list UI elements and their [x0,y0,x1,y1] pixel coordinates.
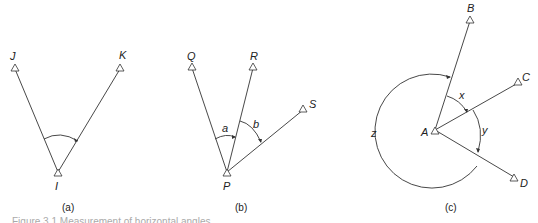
arrowhead-icon [476,148,480,153]
arrowhead-icon [446,75,451,79]
label-j: J [9,50,16,62]
angle-arc-jik [44,135,78,141]
angle-arc-y [473,110,481,152]
panel-c: B C A D x y z (c) [370,2,530,213]
label-d: D [520,177,528,189]
label-i: I [55,180,58,192]
angle-label-y: y [481,124,489,136]
arrowhead-icon [258,139,262,143]
figure-caption-fragment: Figure 3.1 Measurement of horizontal ang… [12,216,210,223]
station-r-icon [249,63,257,70]
station-k-icon [116,64,124,71]
label-a: A [420,126,428,138]
label-s: S [309,98,317,110]
label-p: P [223,180,231,192]
caption-c: (c) [445,202,457,213]
panel-b: Q R S P a b (b) [187,50,317,213]
caption-a: (a) [62,202,74,213]
station-q-icon [188,63,196,70]
label-q: Q [187,50,196,62]
label-r: R [250,50,258,62]
label-b: B [467,2,474,14]
station-c-icon [514,78,522,85]
station-j-icon [11,64,19,71]
label-c: C [522,71,530,83]
label-k: K [119,49,127,61]
angle-label-a: a [222,122,228,134]
station-b-icon [466,16,474,23]
angle-label-b: b [253,118,259,130]
angle-label-z: z [370,127,377,139]
panel-a: J K I (a) [9,49,127,213]
caption-b: (b) [235,202,247,213]
station-s-icon [299,105,307,112]
station-i-icon [54,169,62,176]
angle-label-x: x [458,89,465,101]
angle-diagram: J K I (a) Q R S P a b (b) [0,0,538,223]
